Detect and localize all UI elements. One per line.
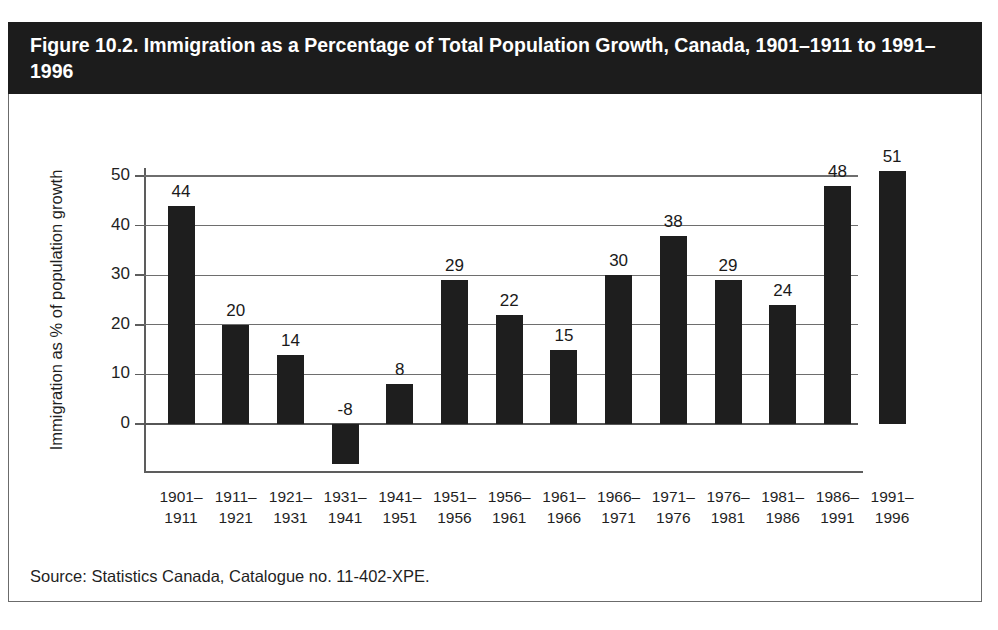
bar-value-label: 20	[208, 301, 264, 321]
chart-plot-area: Immigration as % of population growth 01…	[0, 0, 998, 630]
bar-value-label: 24	[755, 281, 811, 301]
gridline-40	[144, 225, 858, 226]
x-axis-line	[144, 471, 863, 473]
y-axis-title: Immigration as % of population growth	[47, 0, 69, 150]
y-tick-label-40: 40	[92, 215, 130, 235]
bar	[386, 384, 413, 424]
bar-value-label: 51	[864, 147, 920, 167]
bar-value-label: 30	[591, 251, 647, 271]
y-axis-line	[144, 168, 146, 472]
bar	[168, 206, 195, 424]
y-axis-title-text: Immigration as % of population growth	[47, 150, 66, 470]
bar	[332, 424, 359, 464]
bar	[879, 171, 906, 424]
y-tick-mark-10	[135, 374, 144, 376]
y-tick-label-30: 30	[92, 264, 130, 284]
x-axis-label-line2: 1996	[860, 507, 924, 528]
bar	[496, 315, 523, 424]
bar	[222, 325, 249, 424]
bar-value-label: 8	[372, 360, 428, 380]
bar	[824, 186, 851, 424]
bar-value-label: -8	[317, 400, 373, 420]
bar-value-label: 22	[481, 291, 537, 311]
bar	[550, 350, 577, 424]
y-tick-label-50: 50	[92, 165, 130, 185]
bar-value-label: 29	[700, 256, 756, 276]
source-note: Source: Statistics Canada, Catalogue no.…	[30, 567, 430, 586]
y-tick-label-20: 20	[92, 314, 130, 334]
bar	[277, 355, 304, 424]
bar-value-label: 38	[645, 212, 701, 232]
y-tick-label-0: 0	[92, 413, 130, 433]
x-axis-label-line1: 1991–	[860, 486, 924, 507]
bar-value-label: 48	[809, 162, 865, 182]
y-tick-mark-50	[135, 175, 144, 177]
y-tick-label-10: 10	[92, 363, 130, 383]
bar	[769, 305, 796, 424]
bar	[441, 280, 468, 424]
gridline-50	[144, 175, 858, 176]
bar	[715, 280, 742, 424]
y-tick-mark-0	[135, 423, 144, 425]
bar	[605, 275, 632, 424]
y-tick-mark-30	[135, 274, 144, 276]
y-tick-mark-20	[135, 324, 144, 326]
y-tick-mark-40	[135, 225, 144, 227]
figure-container: Figure 10.2. Immigration as a Percentage…	[0, 0, 998, 630]
bar-value-label: 15	[536, 326, 592, 346]
bar-value-label: 29	[427, 256, 483, 276]
bar-value-label: 44	[153, 182, 209, 202]
x-axis-label: 1991–1996	[860, 486, 924, 528]
bar-value-label: 14	[262, 331, 318, 351]
bar	[660, 236, 687, 424]
